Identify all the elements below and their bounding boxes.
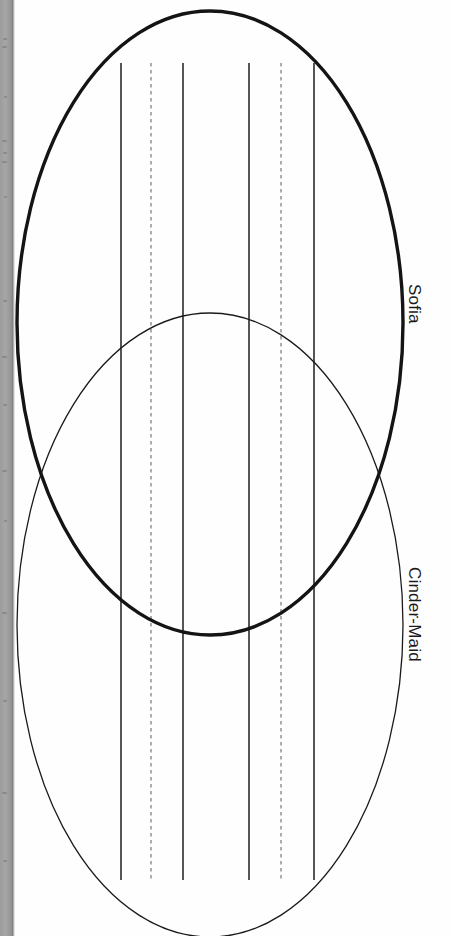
scanned-page: Sofia Cinder-Maid — [0, 0, 452, 936]
venn-ellipse-sofia — [17, 11, 403, 635]
writing-lines-group — [121, 63, 314, 880]
venn-label-sofia: Sofia — [404, 284, 424, 324]
venn-label-cinder-maid: Cinder-Maid — [404, 567, 424, 662]
venn-diagram — [0, 0, 452, 936]
venn-ellipse-cinder-maid — [17, 313, 403, 936]
